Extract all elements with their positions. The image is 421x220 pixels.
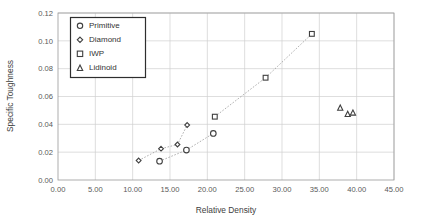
legend-marker-primitive xyxy=(77,23,82,28)
legend-marker-iwp xyxy=(77,51,82,56)
y-tick-label: 0.04 xyxy=(38,120,53,129)
x-tick-label: 35.00 xyxy=(310,185,329,194)
x-tick-label: 0.00 xyxy=(51,185,66,194)
x-tick-label: 45.00 xyxy=(384,185,403,194)
legend-label-lidinoid: Lidinoid xyxy=(89,63,117,72)
y-tick-label: 0.12 xyxy=(38,9,53,18)
scatter-chart: 0.005.0010.0015.0020.0025.0030.0035.0040… xyxy=(0,0,421,220)
y-tick-label: 0.06 xyxy=(38,92,53,101)
legend-label-diamond: Diamond xyxy=(89,35,121,44)
data-point-primitive xyxy=(157,158,163,164)
x-tick-label: 5.00 xyxy=(88,185,103,194)
chart-legend: PrimitiveDiamondIWPLidinoid xyxy=(71,18,146,78)
legend-label-iwp: IWP xyxy=(89,49,104,58)
y-tick-label: 0.02 xyxy=(38,148,53,157)
chart-canvas: 0.005.0010.0015.0020.0025.0030.0035.0040… xyxy=(0,0,421,220)
x-tick-label: 20.00 xyxy=(198,185,217,194)
x-tick-label: 30.00 xyxy=(272,185,291,194)
x-tick-label: 40.00 xyxy=(347,185,366,194)
x-axis-title: Relative Density xyxy=(196,205,257,215)
x-tick-label: 15.00 xyxy=(160,185,179,194)
legend-label-primitive: Primitive xyxy=(89,21,120,30)
data-point-primitive xyxy=(184,147,190,153)
y-tick-labels: 0.000.020.040.060.080.100.12 xyxy=(38,9,53,185)
y-tick-label: 0.08 xyxy=(38,64,53,73)
y-axis-title: Specific Toughness xyxy=(5,60,15,132)
x-tick-label: 25.00 xyxy=(235,185,254,194)
data-point-iwp xyxy=(263,75,268,80)
data-point-iwp xyxy=(309,31,314,36)
x-tick-label: 10.00 xyxy=(123,185,142,194)
data-point-iwp xyxy=(212,114,217,119)
y-tick-label: 0.10 xyxy=(38,37,53,46)
y-tick-label: 0.00 xyxy=(38,176,53,185)
x-tick-labels: 0.005.0010.0015.0020.0025.0030.0035.0040… xyxy=(51,185,404,194)
data-point-primitive xyxy=(211,131,217,137)
